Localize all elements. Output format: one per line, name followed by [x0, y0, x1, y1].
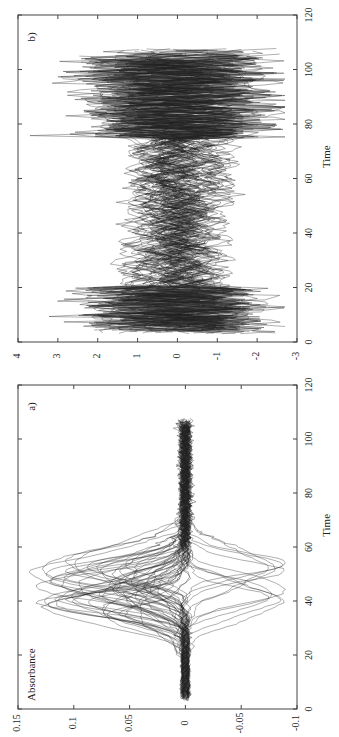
data-series — [179, 422, 285, 701]
x-tick-label: 40 — [303, 596, 314, 606]
panel-label: b) — [25, 32, 38, 42]
y-tick-label: -0.1 — [290, 715, 301, 731]
x-tick-label: 40 — [303, 228, 314, 238]
x-tick-label: 80 — [303, 488, 314, 498]
x-tick-label: 100 — [303, 62, 314, 77]
plot-frame — [18, 385, 297, 709]
data-series — [50, 425, 194, 699]
y-tick-label: 3 — [51, 354, 62, 359]
curves — [30, 49, 285, 334]
x-tick-label: 60 — [303, 174, 314, 184]
figure: 020406080100120-3-2-101234Timeb)02040608… — [0, 0, 339, 737]
y-tick-label: 0.15 — [11, 714, 22, 732]
y-tick-label: 2 — [91, 354, 102, 359]
data-series — [179, 424, 285, 696]
x-tick-label: 0 — [303, 340, 314, 345]
x-tick-label: 120 — [303, 8, 314, 23]
panel-label: a) — [25, 402, 38, 411]
y-tick-label: 0.1 — [67, 717, 78, 730]
x-tick-label: 80 — [303, 119, 314, 129]
y-tick-label: -1 — [211, 352, 222, 360]
y-tick-label: 0.05 — [123, 714, 134, 732]
x-tick-label: 20 — [303, 650, 314, 660]
data-series — [75, 426, 191, 700]
x-tick-label: 120 — [303, 378, 314, 393]
x-axis-title: Time — [320, 514, 332, 537]
y-tick-label: 0 — [171, 354, 182, 359]
y-tick-label: 4 — [11, 354, 22, 359]
x-tick-label: 20 — [303, 283, 314, 293]
data-series — [176, 425, 286, 697]
curves — [29, 418, 285, 701]
y-tick-label: 1 — [131, 354, 142, 359]
x-tick-label: 0 — [303, 707, 314, 712]
data-series — [65, 425, 191, 695]
panel-b: 020406080100120-3-2-101234Timeb) — [11, 8, 331, 361]
x-axis-title: Time — [320, 145, 332, 168]
y-tick-label: 0 — [179, 721, 190, 726]
data-series — [89, 422, 193, 698]
y-tick-label: -2 — [250, 352, 261, 360]
y-axis-title: Absorbance — [25, 648, 37, 701]
data-series — [48, 424, 194, 696]
panel-a: 020406080100120-0.1-0.0500.050.10.15Time… — [11, 378, 331, 734]
y-tick-label: -3 — [290, 352, 301, 360]
x-tick-label: 60 — [303, 542, 314, 552]
y-tick-label: -0.05 — [234, 713, 245, 734]
x-tick-label: 100 — [303, 432, 314, 447]
